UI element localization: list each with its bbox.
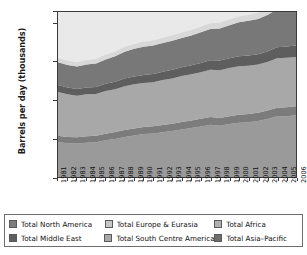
x-tick-mark: [191, 178, 192, 181]
swatch-africa-icon: [214, 220, 222, 228]
legend-item-north-america[interactable]: Total North America: [9, 220, 105, 229]
stacked-area-svg: [58, 12, 296, 177]
x-tick-mark: [172, 178, 173, 181]
x-tick-mark: [143, 178, 144, 181]
x-tick-mark: [278, 178, 279, 181]
x-tick-mark: [211, 178, 212, 181]
legend-label-africa: Total Africa: [226, 220, 266, 229]
legend-item-asia-pacific[interactable]: Total Asia–Pacific: [214, 234, 300, 243]
x-tick-mark: [57, 178, 58, 181]
y-axis-title: Barrels per day (thousands): [17, 11, 27, 171]
legend-label-south-centre-america: Total South Centre America: [116, 234, 214, 243]
x-tick-mark: [105, 178, 106, 181]
legend-item-africa[interactable]: Total Africa: [214, 220, 300, 229]
legend-item-europe-eurasia[interactable]: Total Europe & Eurasia: [105, 220, 215, 229]
legend-row-2: Total Middle East Total South Centre Ame…: [9, 231, 300, 245]
x-tick-mark: [287, 178, 288, 181]
legend-label-asia-pacific: Total Asia–Pacific: [226, 234, 287, 243]
plot-area: [57, 11, 297, 178]
legend-item-south-centre-america[interactable]: Total South Centre America: [104, 234, 214, 243]
swatch-asia-pacific-icon: [214, 234, 222, 242]
x-tick-mark: [76, 178, 77, 181]
x-tick-mark: [230, 178, 231, 181]
x-tick-mark: [297, 178, 298, 181]
x-tick-mark: [153, 178, 154, 181]
legend-label-middle-east: Total Middle East: [21, 234, 82, 243]
x-tick-mark: [201, 178, 202, 181]
x-tick-mark: [124, 178, 125, 181]
x-tick-mark: [220, 178, 221, 181]
x-tick-mark: [115, 178, 116, 181]
x-tick-mark: [268, 178, 269, 181]
legend-row-1: Total North America Total Europe & Euras…: [9, 217, 300, 231]
x-tick-mark: [239, 178, 240, 181]
x-tick-mark: [163, 178, 164, 181]
x-tick-mark: [67, 178, 68, 181]
swatch-europe-eurasia-icon: [105, 220, 113, 228]
x-tick-mark: [134, 178, 135, 181]
legend-item-middle-east[interactable]: Total Middle East: [9, 234, 104, 243]
x-tick-mark: [259, 178, 260, 181]
swatch-south-centre-america-icon: [104, 234, 112, 242]
chart-legend: Total North America Total Europe & Euras…: [4, 214, 303, 247]
x-tick-mark: [95, 178, 96, 181]
x-tick-mark: [86, 178, 87, 181]
legend-label-europe-eurasia: Total Europe & Eurasia: [117, 220, 198, 229]
x-tick-mark: [182, 178, 183, 181]
x-tick-mark: [249, 178, 250, 181]
chart-figure: Barrels per day (thousands) 020 00040 00…: [0, 0, 307, 255]
x-tick-label: 2006: [300, 166, 307, 183]
swatch-middle-east-icon: [9, 234, 17, 242]
swatch-north-america-icon: [9, 220, 17, 228]
legend-label-north-america: Total North America: [21, 220, 92, 229]
